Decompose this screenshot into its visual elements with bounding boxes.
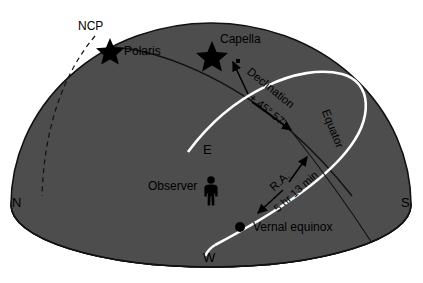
label-vernal-equinox: Vernal equinox: [253, 221, 332, 233]
dot-icon-vernal-equinox: [235, 222, 245, 232]
label-north: N: [12, 196, 21, 209]
label-east: E: [203, 143, 212, 156]
label-west: W: [203, 251, 215, 264]
label-capella: Capella: [220, 33, 261, 45]
declination-tick-mark: [236, 59, 240, 63]
celestial-sphere-diagram: NCP Polaris Capella Declination + 45° 57…: [0, 0, 423, 283]
label-observer: Observer: [148, 180, 197, 192]
label-ncp: NCP: [78, 20, 103, 32]
label-south: S: [401, 196, 410, 209]
label-polaris: Polaris: [124, 45, 161, 57]
